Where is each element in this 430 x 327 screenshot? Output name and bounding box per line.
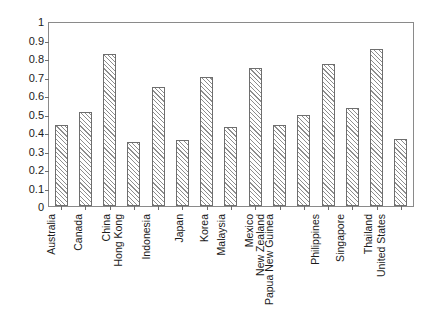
- y-axis-tick-mark: [45, 97, 49, 98]
- x-axis-tick-label: Thailand: [363, 174, 374, 214]
- x-axis-tick-label-text: China: [101, 214, 112, 241]
- x-axis-tick-label: Canada: [72, 177, 83, 214]
- bar-hong-kong[interactable]: [127, 142, 140, 206]
- x-axis-tick-label-text: Korea: [199, 214, 210, 242]
- x-axis-tick-label-text: Philippines: [309, 214, 320, 265]
- y-axis-tick-label: 0.9: [29, 35, 44, 46]
- y-axis-tick-label: 0.4: [29, 128, 44, 139]
- x-axis-tick-label-text: Malaysia: [216, 214, 227, 255]
- x-label-slot: United States: [390, 207, 414, 325]
- y-axis-tick-label: 0.6: [29, 91, 44, 102]
- y-axis-tick-mark: [45, 134, 49, 135]
- bar-indonesia[interactable]: [152, 87, 165, 206]
- y-axis-tick-mark: [45, 153, 49, 154]
- bars-layer: [49, 23, 413, 206]
- bar-australia[interactable]: [55, 125, 68, 206]
- x-axis-tick-label-text: Japan: [174, 214, 185, 243]
- x-axis-tick-label: Singapore: [335, 166, 346, 214]
- y-axis-tick-label: 0: [38, 202, 44, 213]
- y-axis-tick-label: 0.5: [29, 109, 44, 120]
- x-axis-tick-label-text: Thailand: [363, 214, 374, 254]
- x-axis-tick-label: Hong Kong: [113, 161, 124, 214]
- x-axis-tick-label: Mexico: [245, 181, 256, 214]
- x-axis-tick-label-text: Australia: [46, 214, 57, 255]
- y-axis-tick-mark: [45, 60, 49, 61]
- x-axis-tick-label-text: Indonesia: [141, 214, 152, 260]
- x-axis-tick-label: Philippines: [309, 163, 320, 214]
- y-axis-tick-mark: [45, 116, 49, 117]
- x-axis-tick-label-text: Singapore: [335, 214, 346, 262]
- plot-area: [48, 22, 414, 207]
- y-axis-tick-label: 0.1: [29, 183, 44, 194]
- x-axis-tick-label: Papua New Guinea: [265, 123, 276, 214]
- x-label-slot: Australia: [48, 207, 72, 325]
- bar-united-states[interactable]: [394, 139, 407, 206]
- x-label-slot: Canada: [72, 207, 96, 325]
- x-axis-tick-label: United States: [376, 151, 387, 214]
- y-axis-tick-mark: [45, 42, 49, 43]
- x-axis-tick-label: Indonesia: [141, 168, 152, 214]
- x-label-slot: Japan: [170, 207, 194, 325]
- x-axis-tick-label: Korea: [199, 186, 210, 214]
- y-axis-tick-label: 0.2: [29, 165, 44, 176]
- bar-chart-figure: 00.10.20.30.40.50.60.70.80.91 AustraliaC…: [0, 0, 430, 327]
- bar-slot: [195, 23, 219, 206]
- bar-slot: [389, 23, 413, 206]
- x-label-slot: Malaysia: [219, 207, 243, 325]
- bar-papua-new-guinea[interactable]: [297, 115, 310, 206]
- x-axis-tick-label-text: Canada: [72, 214, 83, 251]
- x-axis-tick-label-text: United States: [376, 214, 387, 277]
- x-axis-tick-label-text: Papua New Guinea: [265, 214, 276, 305]
- y-axis-tick-mark: [45, 171, 49, 172]
- bar-slot: [170, 23, 194, 206]
- x-axis-tick-label: Australia: [46, 173, 57, 214]
- y-axis-tick-label: 0.3: [29, 146, 44, 157]
- x-axis-tick-label-text: Hong Kong: [113, 214, 124, 267]
- x-axis-tick-label: China: [101, 187, 112, 214]
- x-axis-tick-label: Malaysia: [216, 173, 227, 214]
- y-axis: 00.10.20.30.40.50.60.70.80.91: [0, 0, 44, 327]
- bar-singapore[interactable]: [346, 108, 359, 206]
- x-axis-tick-label: Japan: [174, 185, 185, 214]
- x-label-slot: Indonesia: [146, 207, 170, 325]
- y-axis-tick-label: 0.7: [29, 72, 44, 83]
- bar-philippines[interactable]: [322, 64, 335, 206]
- y-axis-tick-label: 0.8: [29, 54, 44, 65]
- x-axis: AustraliaCanadaChinaHong KongIndonesiaJa…: [48, 207, 414, 325]
- y-axis-tick-label: 1: [38, 17, 44, 28]
- y-axis-tick-mark: [45, 79, 49, 80]
